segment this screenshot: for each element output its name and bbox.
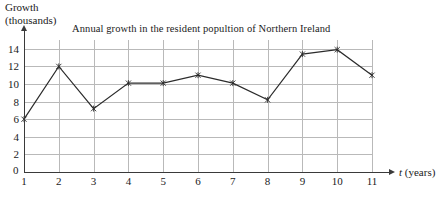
y-tick-label: 8	[14, 96, 20, 108]
y-axis-arrow-icon	[21, 25, 27, 31]
x-axis-caption: t (years)	[399, 166, 435, 178]
data-point-marker	[369, 72, 374, 78]
x-tick-label: 7	[230, 175, 236, 187]
y-axis-line	[24, 30, 25, 172]
x-axis-arrow-icon	[389, 169, 395, 175]
y-tick-label: 6	[14, 113, 20, 125]
data-point-marker	[265, 97, 270, 103]
y-tick-label: 14	[8, 43, 19, 55]
data-series	[24, 40, 372, 172]
y-tick-label: 2	[14, 148, 20, 160]
y-tick-label: 10	[8, 78, 19, 90]
x-tick-label: 11	[367, 175, 378, 187]
series-line	[24, 50, 372, 120]
y-tick-label: 4	[14, 131, 20, 143]
x-tick-label: 1	[21, 175, 27, 187]
chart-screenshot: Growth (thousands) Annual growth in the …	[0, 0, 448, 211]
x-tick-label: 6	[195, 175, 201, 187]
x-axis-unit: (years)	[405, 166, 436, 178]
y-tick-label: 12	[8, 60, 19, 72]
x-tick-label: 3	[91, 175, 97, 187]
chart-title: Annual growth in the resident popultion …	[72, 23, 330, 34]
x-tick-label: 8	[265, 175, 271, 187]
x-tick-label: 4	[126, 175, 132, 187]
gridline-vertical	[372, 40, 373, 172]
data-point-marker	[91, 106, 96, 112]
x-axis-line	[24, 172, 390, 173]
data-point-marker	[56, 63, 61, 69]
plot-area	[24, 40, 372, 172]
y-tick-labels: 2468101214	[0, 0, 19, 211]
x-tick-label: 9	[300, 175, 306, 187]
x-tick-label: 10	[332, 175, 343, 187]
x-tick-label: 2	[56, 175, 62, 187]
x-tick-label: 5	[160, 175, 166, 187]
x-axis-variable: t	[399, 166, 402, 178]
